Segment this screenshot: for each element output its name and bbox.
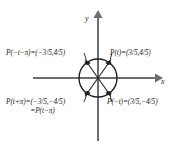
point-label-bottom-left: P(t+π)=(−3/5,−4/5) =P(t−π) bbox=[6, 97, 65, 115]
y-axis-label: y bbox=[85, 14, 89, 23]
point-label-bottom-right: P(−t)=(3/5,−4/5) bbox=[107, 97, 158, 106]
point-label-bottom-left-line2: =P(t−π) bbox=[6, 106, 65, 115]
y-axis bbox=[94, 10, 103, 141]
radius-to-P-neg-t-minus-pi bbox=[87, 63, 98, 78]
unit-circle-figure: x y P(−t−π)=(−3/5,4/5) P(t)=(3/5,4/5) P(… bbox=[0, 0, 183, 149]
radius-to-P-t bbox=[98, 63, 109, 78]
radius-to-P-neg-t bbox=[98, 78, 109, 93]
point-label-top-right: P(t)=(3/5,4/5) bbox=[110, 48, 151, 57]
x-axis-label: x bbox=[161, 77, 165, 86]
figure-canvas bbox=[0, 0, 183, 149]
point-label-top-left: P(−t−π)=(−3/5,4/5) bbox=[6, 48, 65, 57]
radius-to-P-t-plus-pi bbox=[87, 78, 98, 93]
leader-bottom-left bbox=[84, 94, 87, 102]
leader-top-left bbox=[84, 53, 87, 62]
point-label-bottom-left-line1: P(t+π)=(−3/5,−4/5) bbox=[6, 97, 65, 106]
